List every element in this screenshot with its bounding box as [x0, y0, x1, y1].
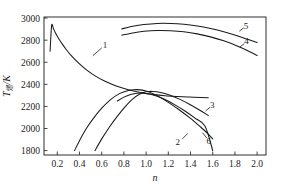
curve-label-1: 1 — [103, 40, 108, 50]
x-tick-label: 1.6 — [207, 159, 219, 169]
axis-ticks — [44, 18, 257, 155]
curve-label-4: 4 — [244, 36, 249, 46]
curve-labels: 123456 — [103, 21, 250, 147]
x-tick-label: 1.8 — [229, 159, 241, 169]
y-axis-title: T燃/K — [1, 74, 14, 97]
x-tick-label: 1.0 — [140, 159, 152, 169]
leader-line-1 — [93, 48, 102, 56]
chart-svg: 0.20.40.60.81.01.21.41.61.82.0 180020002… — [0, 0, 286, 191]
data-curves — [50, 23, 257, 150]
curve-4 — [122, 30, 257, 55]
y-tick-label: 2200 — [21, 102, 40, 112]
curve-label-2: 2 — [176, 137, 181, 147]
y-tick-label: 3000 — [21, 14, 40, 24]
curve-1 — [50, 24, 208, 97]
curve-2 — [75, 90, 213, 151]
x-tick-label: 0.6 — [96, 159, 108, 169]
x-tick-labels: 0.20.40.60.81.01.21.41.61.82.0 — [51, 159, 263, 169]
curve-label-6: 6 — [207, 136, 212, 146]
y-tick-label: 1800 — [21, 146, 40, 156]
curve-label-5: 5 — [244, 21, 249, 31]
x-tick-label: 0.2 — [51, 159, 63, 169]
curve-label-leaders — [93, 28, 245, 139]
chart-figure: 0.20.40.60.81.01.21.41.61.82.0 180020002… — [0, 0, 286, 191]
curve-3 — [95, 91, 208, 150]
leader-line-2 — [182, 133, 188, 139]
y-tick-label: 2000 — [21, 124, 40, 134]
x-tick-label: 0.8 — [118, 159, 130, 169]
x-tick-label: 2.0 — [251, 159, 263, 169]
x-tick-label: 0.4 — [74, 159, 86, 169]
y-tick-label: 2600 — [21, 58, 40, 68]
x-tick-label: 1.2 — [162, 159, 174, 169]
curve-6 — [117, 93, 212, 151]
x-tick-label: 1.4 — [185, 159, 197, 169]
plot-frame — [44, 17, 266, 155]
plot-border — [44, 17, 266, 155]
x-axis-title: n — [153, 172, 158, 183]
y-tick-labels: 1800200022002400260028003000 — [21, 14, 40, 156]
curve-label-3: 3 — [210, 100, 215, 110]
y-tick-label: 2800 — [21, 36, 40, 46]
y-tick-label: 2400 — [21, 80, 40, 90]
